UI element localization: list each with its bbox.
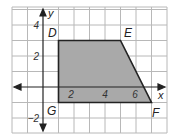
vertex-label-g: G bbox=[47, 104, 56, 118]
x-axis-left-arrow-icon bbox=[14, 84, 21, 90]
coordinate-plane: y x 2 4 6 4 2 −2 D E F G bbox=[0, 0, 177, 140]
x-axis-label: x bbox=[157, 89, 164, 101]
y-axis-label: y bbox=[47, 7, 55, 19]
y-axis bbox=[40, 9, 46, 131]
vertex-label-d: D bbox=[48, 26, 57, 40]
y-axis-down-arrow-icon bbox=[40, 124, 46, 131]
y-axis-up-arrow-icon bbox=[40, 9, 46, 16]
y-tick-label-2: 2 bbox=[32, 51, 39, 62]
x-tick-label-6: 6 bbox=[132, 89, 138, 100]
y-tick-label-neg2: −2 bbox=[28, 113, 40, 124]
vertex-label-e: E bbox=[124, 26, 133, 40]
x-tick-label-2: 2 bbox=[67, 89, 74, 100]
x-tick-label-4: 4 bbox=[102, 89, 108, 100]
y-tick-label-4: 4 bbox=[33, 20, 39, 31]
vertex-label-f: F bbox=[152, 106, 160, 120]
